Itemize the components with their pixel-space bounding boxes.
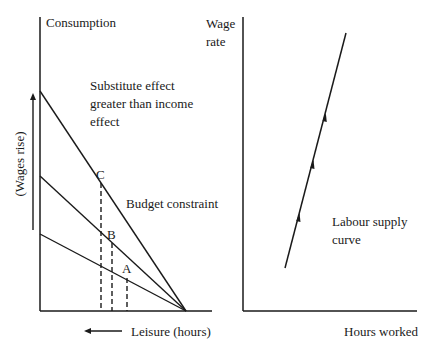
hours-worked-label: Hours worked — [344, 324, 419, 339]
labour-supply-diagram: Consumption C B A Substitute effect grea… — [0, 0, 432, 355]
annotation-line-2: greater than income — [90, 96, 193, 111]
annotation-line-1: Substitute effect — [90, 78, 175, 93]
point-label-b: B — [107, 227, 116, 242]
leisure-label: Leisure (hours) — [131, 324, 211, 339]
wages-rise-label: (Wages rise) — [12, 131, 27, 196]
labour-supply-label-2: curve — [332, 232, 361, 247]
wage-rate-label-1: Wage — [206, 16, 235, 31]
annotation-line-3: effect — [90, 114, 120, 129]
labour-supply-label-1: Labour supply — [332, 214, 408, 229]
budget-line-low — [40, 234, 186, 311]
wage-rate-label-2: rate — [206, 34, 226, 49]
point-label-a: A — [122, 261, 132, 276]
budget-constraint-label: Budget constraint — [126, 196, 218, 211]
consumption-label: Consumption — [46, 15, 117, 30]
point-label-c: C — [96, 167, 105, 182]
